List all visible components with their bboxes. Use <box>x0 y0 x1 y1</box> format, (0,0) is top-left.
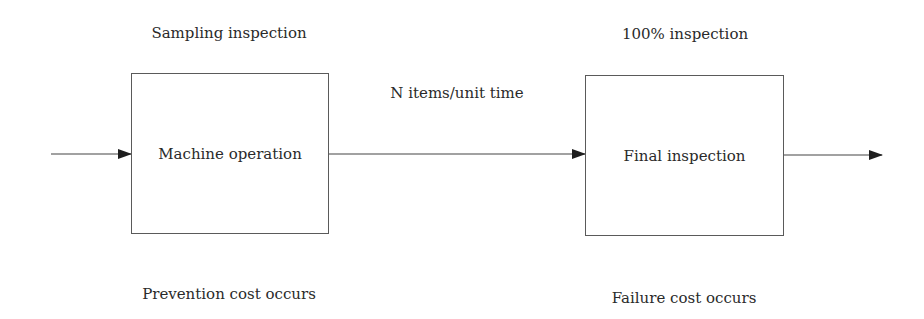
machine-operation-label: Machine operation <box>158 145 302 163</box>
final-inspection-label: Final inspection <box>624 147 746 165</box>
throughput-label: N items/unit time <box>390 84 523 102</box>
sampling-inspection-label: Sampling inspection <box>151 24 306 42</box>
machine-operation-box: Machine operation <box>131 73 329 234</box>
process-flow-diagram: Sampling inspection 100% inspection N it… <box>0 0 924 319</box>
prevention-cost-label: Prevention cost occurs <box>142 285 316 303</box>
full-inspection-label: 100% inspection <box>622 25 748 43</box>
failure-cost-label: Failure cost occurs <box>612 289 757 307</box>
final-inspection-box: Final inspection <box>585 75 784 236</box>
